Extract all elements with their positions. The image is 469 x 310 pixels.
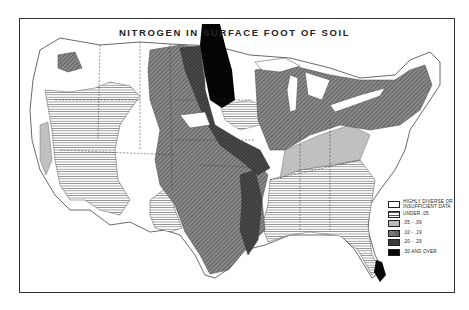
legend-item-30-over: .30 AND OVER xyxy=(388,248,460,257)
region-30-over-florida xyxy=(374,260,386,282)
legend-label: .20 - .29 xyxy=(403,240,422,245)
legend-swatch-horizontal-lines xyxy=(388,211,400,218)
legend-swatch-solid-black xyxy=(388,249,400,256)
legend-label-2: INSUFFICIENT DATA xyxy=(403,205,453,210)
legend-item-under-05: UNDER .05 xyxy=(388,210,460,219)
legend-label: .05 - .09 xyxy=(403,221,422,226)
legend-label: .10 - .19 xyxy=(403,231,422,236)
us-soil-nitrogen-map xyxy=(0,0,469,310)
legend-item-20-29: .20 - .29 xyxy=(388,238,460,247)
legend-item-05-09: .05 - .09 xyxy=(388,219,460,228)
map-legend: HIGHLY DIVERSE OR INSUFFICIENT DATA UNDE… xyxy=(388,200,460,257)
map-title: NITROGEN IN SURFACE FOOT OF SOIL xyxy=(0,27,469,38)
legend-label: .30 AND OVER xyxy=(403,250,437,255)
legend-swatch-blank xyxy=(388,201,400,208)
legend-item-highly-diverse: HIGHLY DIVERSE OR INSUFFICIENT DATA xyxy=(388,200,460,209)
legend-swatch-diagonal-hatch xyxy=(388,230,400,237)
legend-swatch-light-stipple xyxy=(388,220,400,227)
region-under-05-southeast xyxy=(262,160,380,275)
legend-swatch-dark-hatch xyxy=(388,239,400,246)
legend-item-10-19: .10 - .19 xyxy=(388,229,460,238)
legend-label: UNDER .05 xyxy=(403,212,429,217)
